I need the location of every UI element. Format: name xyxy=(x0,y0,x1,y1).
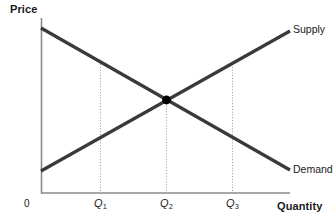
equilibrium-point-marker xyxy=(162,96,171,105)
supply-demand-chart: Price Quantity Supply Demand 0 Q1 Q2 Q3 xyxy=(0,0,334,222)
x-tick-label-q2: Q2 xyxy=(160,198,173,209)
chart-plot-area xyxy=(0,0,334,222)
x-tick-q2-base: Q xyxy=(160,197,169,209)
x-tick-label-q1: Q1 xyxy=(94,198,107,209)
y-axis-title: Price xyxy=(10,4,37,15)
x-tick-q1-base: Q xyxy=(94,197,103,209)
x-tick-q3-subscript: 3 xyxy=(235,202,239,211)
x-tick-q2-subscript: 2 xyxy=(169,202,173,211)
x-tick-q3-base: Q xyxy=(226,197,235,209)
supply-curve-label: Supply xyxy=(293,24,325,35)
x-tick-label-q3: Q3 xyxy=(226,198,239,209)
demand-curve-label: Demand xyxy=(293,164,333,175)
origin-label: 0 xyxy=(24,199,30,209)
x-axis-title: Quantity xyxy=(277,201,322,212)
x-tick-q1-subscript: 1 xyxy=(103,202,107,211)
